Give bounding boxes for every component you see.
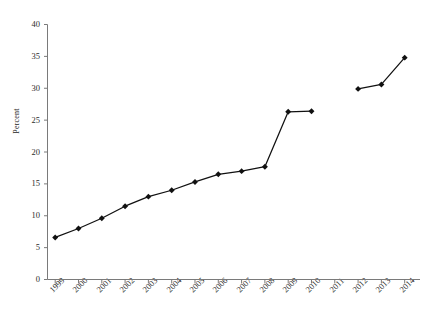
data-point-marker <box>52 234 58 240</box>
line-chart: Percent 0510152025303540 199920002001200… <box>0 0 431 322</box>
data-point-marker <box>169 187 175 193</box>
data-point-marker <box>262 164 268 170</box>
data-point-marker <box>215 171 221 177</box>
data-point-marker <box>239 168 245 174</box>
data-point-marker <box>122 203 128 209</box>
data-point-marker <box>76 226 82 232</box>
data-point-marker <box>192 179 198 185</box>
data-point-marker <box>355 86 361 92</box>
data-point-marker <box>145 194 151 200</box>
series-line-segment <box>55 111 311 237</box>
data-point-marker <box>309 108 315 114</box>
data-series <box>52 55 407 241</box>
data-point-marker <box>285 109 291 115</box>
axes <box>44 25 420 284</box>
plot-area <box>0 0 431 322</box>
data-point-marker <box>99 215 105 221</box>
